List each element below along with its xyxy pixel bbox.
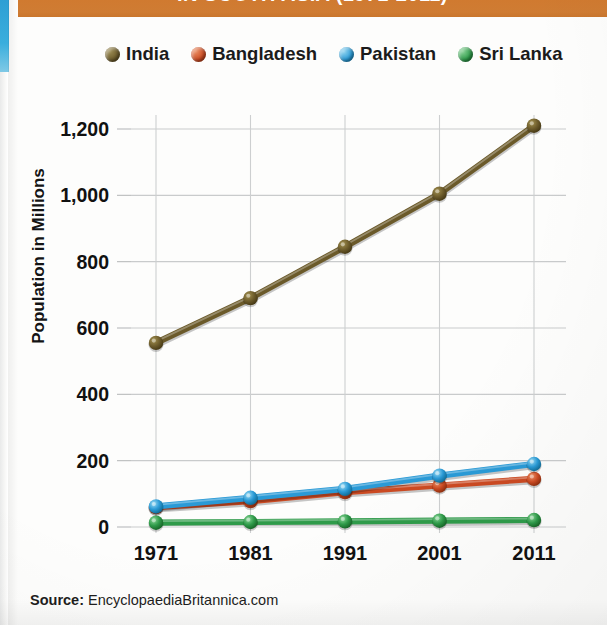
data-point[interactable] xyxy=(432,186,446,200)
data-point[interactable] xyxy=(527,513,541,527)
data-point[interactable] xyxy=(527,457,541,471)
plot-area: 02004006008001,0001,200 1971198119912001… xyxy=(0,0,607,625)
x-tick-label: 2011 xyxy=(512,542,555,564)
chart-page: IN SOUTH ASIA (1971-2011) India Banglade… xyxy=(0,0,607,625)
x-tick-label: 2001 xyxy=(417,542,462,564)
x-axis-ticks: 19711981199120012011 xyxy=(134,542,556,564)
data-point[interactable] xyxy=(243,291,257,305)
data-point[interactable] xyxy=(338,514,352,528)
data-point[interactable] xyxy=(149,499,163,513)
source-line: Source: EncyclopaediaBritannica.com xyxy=(30,592,278,608)
y-tick-label: 600 xyxy=(76,317,109,339)
y-tick-label: 1,200 xyxy=(60,118,109,140)
data-point[interactable] xyxy=(149,336,163,350)
data-point[interactable] xyxy=(432,468,446,482)
x-tick-label: 1971 xyxy=(134,542,179,564)
x-tick-label: 1981 xyxy=(228,542,273,564)
y-axis-ticks: 02004006008001,0001,200 xyxy=(60,118,109,538)
y-tick-label: 1,000 xyxy=(60,184,109,206)
y-tick-label: 400 xyxy=(76,383,109,405)
chart-svg: 02004006008001,0001,200 1971198119912001… xyxy=(0,0,607,625)
data-point[interactable] xyxy=(432,513,446,527)
x-tick-label: 1991 xyxy=(323,542,368,564)
series-sri-lanka xyxy=(148,513,541,532)
source-label: Source: xyxy=(30,592,84,608)
data-point[interactable] xyxy=(338,240,352,254)
data-point[interactable] xyxy=(527,118,541,132)
data-point[interactable] xyxy=(149,515,163,529)
y-tick-label: 200 xyxy=(76,450,109,472)
data-point[interactable] xyxy=(243,515,257,529)
data-point[interactable] xyxy=(527,472,541,486)
data-point[interactable] xyxy=(243,491,257,505)
y-tick-label: 0 xyxy=(98,516,109,538)
y-tick-label: 800 xyxy=(76,251,109,273)
data-point[interactable] xyxy=(338,482,352,496)
source-value: EncyclopaediaBritannica.com xyxy=(88,592,278,608)
